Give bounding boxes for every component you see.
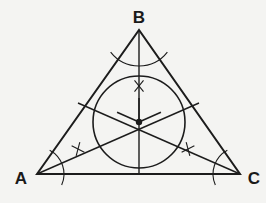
vertex-label-C: C <box>248 169 260 188</box>
geometry-figure: ABC <box>0 0 266 203</box>
vertex-label-B: B <box>133 8 145 27</box>
diagram-canvas: ABC <box>0 0 266 203</box>
vertex-label-A: A <box>15 169 27 188</box>
incenter-point <box>136 119 142 125</box>
